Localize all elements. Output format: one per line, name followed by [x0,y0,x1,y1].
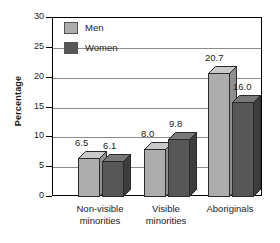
legend-item-women: Women [64,40,118,55]
y-tick-label-30: 30 [18,12,44,21]
value-label-women-1: 9.8 [169,119,182,129]
category-label-line: minorities [121,215,211,227]
y-tick-0 [46,196,52,197]
y-tick-label-15: 15 [18,102,44,111]
legend-swatch-women [64,42,78,54]
value-label-women-2: 16.0 [233,82,252,92]
y-tick-label-25: 25 [18,42,44,51]
legend-item-men: Men [64,20,118,35]
bar-women-2 [232,95,261,197]
category-label-line: Aboriginals [185,203,275,215]
bar-chart: Percentage 051015202530 6.56.18.09.820.7… [0,0,280,243]
category-label-2: Aboriginals [185,203,275,215]
value-label-men-1: 8.0 [141,129,154,139]
y-tick-label-10: 10 [18,131,44,140]
value-label-women-0: 6.1 [103,141,116,151]
bar-women-0 [102,154,131,197]
legend-swatch-men [64,22,78,34]
value-label-men-2: 20.7 [205,53,224,63]
value-label-men-0: 6.5 [75,138,88,148]
y-tick-label-5: 5 [18,161,44,170]
legend: Men Women [64,20,118,60]
bar-women-1 [168,132,197,197]
gridline-30 [53,18,261,19]
legend-label-women: Women [85,43,118,53]
legend-label-men: Men [85,23,103,33]
y-tick-label-20: 20 [18,72,44,81]
y-tick-label-0: 0 [18,191,44,200]
